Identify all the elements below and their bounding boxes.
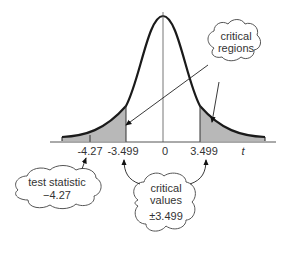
critical-regions-text-2: regions [218, 42, 255, 54]
critical-values-text-3: ±3.499 [149, 210, 183, 222]
tick-label-neg-critical: -3.499 [107, 145, 138, 157]
critical-values-text-1: critical [150, 182, 181, 194]
test-statistic-text-1: test statistic [28, 176, 86, 188]
arrow-to-right-region [212, 82, 219, 122]
tick-label-pos-critical: 3.499 [190, 145, 218, 157]
critical-values-text-2: values [150, 194, 182, 206]
tick-label-test-statistic: -4.27 [77, 145, 102, 157]
arrow-to-neg-critical [124, 160, 140, 184]
t-distribution-diagram: -4.27 -3.499 0 3.499 t critical regions … [0, 0, 292, 255]
test-statistic-text-2: −4.27 [43, 189, 71, 201]
axis-variable-label: t [241, 145, 245, 157]
arrow-to-test-statistic [82, 158, 86, 169]
critical-regions-text-1: critical [220, 30, 251, 42]
arrow-to-pos-critical [190, 160, 206, 184]
tick-label-zero: 0 [162, 145, 168, 157]
